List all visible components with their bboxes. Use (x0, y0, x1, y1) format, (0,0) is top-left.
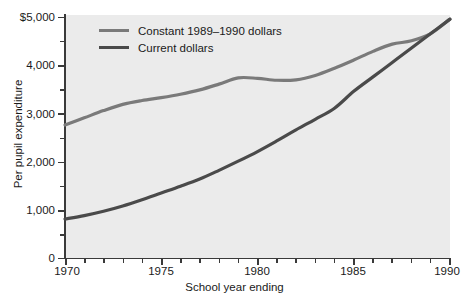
series-line-current-dollars (65, 19, 450, 219)
series-layer (0, 0, 469, 301)
series-line-constant-dollars (65, 19, 450, 125)
chart-figure: $5,000 4,000 3,000 2,000 1,000 0 1970 19… (0, 0, 469, 301)
